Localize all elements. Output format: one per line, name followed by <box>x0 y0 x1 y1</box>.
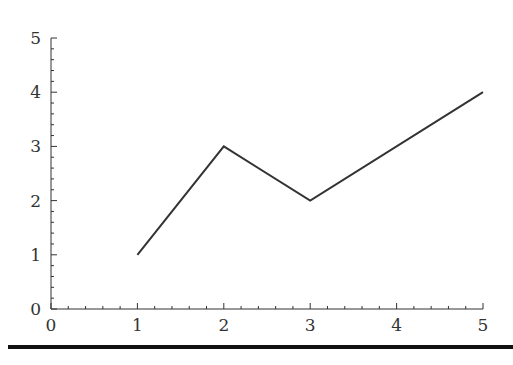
x-tick-label: 3 <box>305 315 316 335</box>
y-tick-label: 5 <box>30 28 41 48</box>
y-tick-label: 2 <box>30 191 41 211</box>
line-chart: 012345012345 <box>0 0 513 365</box>
x-tick-label: 4 <box>391 315 402 335</box>
x-tick-label: 0 <box>46 315 57 335</box>
x-tick-label: 5 <box>478 315 489 335</box>
bottom-rule-divider <box>8 345 513 349</box>
y-tick-label: 3 <box>30 136 41 156</box>
y-tick-label: 4 <box>30 82 41 102</box>
series-line-series-1 <box>137 92 483 255</box>
x-tick-label: 2 <box>218 315 229 335</box>
y-tick-label: 0 <box>30 299 41 319</box>
x-tick-label: 1 <box>132 315 143 335</box>
y-tick-label: 1 <box>30 245 41 265</box>
tick-labels: 012345012345 <box>30 28 488 335</box>
series-group <box>137 92 483 255</box>
